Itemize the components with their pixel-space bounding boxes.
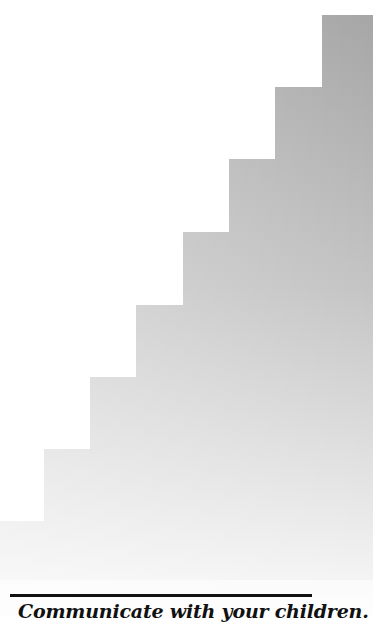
horizontal-rule (10, 594, 312, 597)
caption-text: Communicate with your children. (18, 600, 369, 622)
